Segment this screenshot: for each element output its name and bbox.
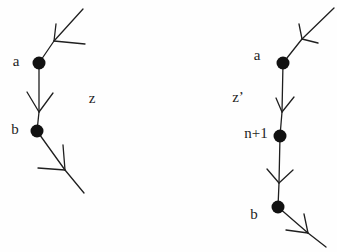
path-label-right: z’ [232, 89, 244, 105]
node-label-a: a [254, 47, 261, 63]
node-dot-a [277, 57, 290, 70]
arrowhead-barb [63, 145, 65, 170]
arrowhead-barb [299, 24, 302, 39]
arrowhead-barb [276, 98, 282, 112]
node-label-n+1: n+1 [244, 125, 267, 141]
tree-right: an+1bz’ [232, 8, 334, 247]
path-rewrite-diagram: abzan+1bz’ [0, 0, 337, 252]
arrowhead-barb [282, 97, 294, 112]
arrowhead-barb [38, 168, 65, 170]
node-label-b: b [11, 121, 19, 137]
diagram-canvas: abzan+1bz’ [0, 0, 337, 252]
edge-line [37, 131, 84, 193]
node-dot-b [31, 125, 44, 138]
node-dot-a [33, 57, 46, 70]
edge-line [37, 63, 39, 131]
arrowhead-barb [39, 93, 53, 112]
path-label-left: z [89, 90, 96, 106]
node-dot-b [272, 201, 285, 214]
edge-line [278, 207, 326, 247]
arrowhead-barb [302, 39, 318, 43]
edge-line [278, 136, 280, 207]
node-label-a: a [13, 53, 20, 69]
arrowhead-barb [27, 92, 39, 112]
tree-left: abz [11, 9, 95, 193]
arrowhead-barb [279, 170, 293, 183]
node-dot-n+1 [274, 130, 287, 143]
node-label-b: b [250, 206, 258, 222]
edge-line [283, 8, 334, 63]
arrowhead-barb [267, 169, 279, 183]
edge-line [280, 63, 283, 136]
arrowhead-barb [54, 41, 85, 44]
edge-line [39, 9, 83, 63]
